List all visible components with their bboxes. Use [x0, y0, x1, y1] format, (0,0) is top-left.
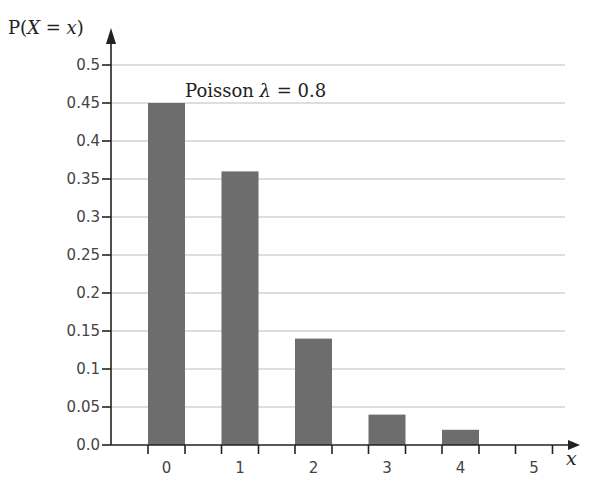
y-axis-label: P(X = x) [8, 17, 84, 38]
x-axis-label: x [566, 447, 577, 469]
x-tick-label: 4 [456, 459, 466, 477]
y-tick-label: 0.45 [67, 94, 100, 112]
x-tick-label: 0 [162, 459, 172, 477]
y-tick-label: 0.2 [76, 284, 100, 302]
y-axis-arrow-icon [106, 28, 116, 44]
x-tick-label: 5 [529, 459, 539, 477]
y-axis: 0.00.050.10.150.20.250.30.350.40.450.5 [67, 28, 116, 454]
bar-x-4 [442, 430, 479, 445]
y-tick-label: 0.05 [67, 398, 100, 416]
y-tick-label: 0.3 [76, 208, 100, 226]
y-tick-label: 0.5 [76, 56, 100, 74]
x-tick-label: 2 [309, 459, 319, 477]
bar-x-2 [295, 339, 332, 445]
bar-x-3 [369, 415, 406, 445]
y-tick-label: 0.4 [76, 132, 100, 150]
x-tick-label: 3 [382, 459, 392, 477]
y-tick-label: 0.35 [67, 170, 100, 188]
y-tick-label: 0.25 [67, 246, 100, 264]
bar-x-0 [148, 103, 185, 445]
distribution-annotation: Poisson λ = 0.8 [185, 80, 326, 101]
bar-x-1 [222, 171, 259, 445]
poisson-bar-chart: 0.00.050.10.150.20.250.30.350.40.450.5 0… [0, 0, 592, 500]
bars [148, 103, 479, 445]
x-axis: 012345 [111, 440, 580, 477]
x-tick-label: 1 [235, 459, 245, 477]
y-tick-label: 0.1 [76, 360, 100, 378]
y-tick-label: 0.0 [76, 436, 100, 454]
y-tick-label: 0.15 [67, 322, 100, 340]
